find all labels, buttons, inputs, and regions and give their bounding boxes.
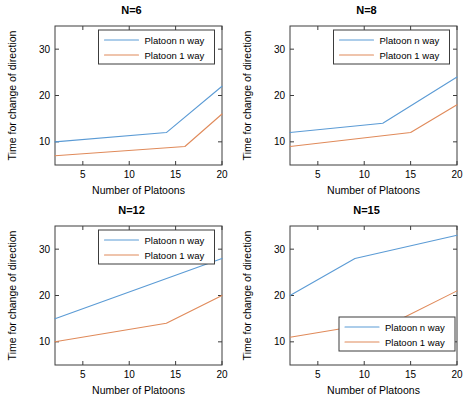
subplot-panel-n8: N=8 5101520102030Platoon n wayPlatoon 1 … bbox=[235, 0, 470, 199]
x-tick-label: 5 bbox=[80, 369, 86, 380]
legend[interactable]: Platoon n wayPlatoon 1 way bbox=[339, 317, 455, 351]
legend[interactable]: Platoon n wayPlatoon 1 way bbox=[334, 30, 450, 64]
y-tick-label: 30 bbox=[274, 244, 286, 255]
legend-label: Platoon 1 way bbox=[145, 250, 205, 261]
y-axis-label: Time for change of direction bbox=[6, 230, 18, 360]
y-tick-label: 10 bbox=[274, 136, 286, 147]
y-axis-label: Time for change of direction bbox=[241, 30, 253, 160]
x-tick-label: 10 bbox=[124, 169, 136, 180]
x-tick-label: 15 bbox=[170, 169, 182, 180]
x-tick-label: 10 bbox=[124, 369, 136, 380]
plot-area-n12: 5101520102030Platoon n wayPlatoon 1 wayN… bbox=[0, 200, 235, 399]
series-line-n-way bbox=[290, 77, 457, 133]
series-line-n-way bbox=[55, 86, 222, 142]
y-tick-label: 20 bbox=[39, 90, 51, 101]
x-tick-label: 10 bbox=[359, 169, 371, 180]
y-tick-label: 10 bbox=[274, 336, 286, 347]
y-axis-label: Time for change of direction bbox=[6, 30, 18, 160]
subplot-panel-n15: N=15 5101520102030Platoon n wayPlatoon 1… bbox=[235, 200, 470, 399]
plot-area-n15: 5101520102030Platoon n wayPlatoon 1 wayN… bbox=[235, 200, 470, 399]
x-axis-label: Number of Platoons bbox=[327, 384, 420, 396]
y-tick-label: 10 bbox=[39, 336, 51, 347]
y-axis-label: Time for change of direction bbox=[241, 230, 253, 360]
y-tick-label: 30 bbox=[39, 244, 51, 255]
legend-label: Platoon 1 way bbox=[380, 50, 440, 61]
legend-label: Platoon n way bbox=[145, 235, 205, 246]
legend[interactable]: Platoon n wayPlatoon 1 way bbox=[99, 230, 215, 264]
subplot-panel-n12: N=12 5101520102030Platoon n wayPlatoon 1… bbox=[0, 200, 235, 399]
legend-label: Platoon n way bbox=[145, 35, 205, 46]
y-tick-label: 20 bbox=[274, 90, 286, 101]
series-line-n-way bbox=[55, 258, 222, 318]
series-line-1-way bbox=[55, 296, 222, 342]
x-tick-label: 10 bbox=[359, 369, 371, 380]
series-line-n-way bbox=[290, 235, 457, 295]
x-tick-label: 15 bbox=[405, 169, 417, 180]
series-line-1-way bbox=[290, 105, 457, 147]
figure-canvas: N=6 5101520102030Platoon n wayPlatoon 1 … bbox=[0, 0, 470, 399]
x-tick-label: 5 bbox=[315, 169, 321, 180]
x-tick-label: 5 bbox=[315, 369, 321, 380]
x-axis-label: Number of Platoons bbox=[327, 184, 420, 196]
y-tick-label: 10 bbox=[39, 136, 51, 147]
legend-label: Platoon 1 way bbox=[145, 50, 205, 61]
x-tick-label: 15 bbox=[170, 369, 182, 380]
y-tick-label: 20 bbox=[39, 290, 51, 301]
legend-label: Platoon n way bbox=[380, 35, 440, 46]
x-tick-label: 20 bbox=[216, 169, 228, 180]
plot-area-n6: 5101520102030Platoon n wayPlatoon 1 wayN… bbox=[0, 0, 235, 199]
x-tick-label: 5 bbox=[80, 169, 86, 180]
x-axis-label: Number of Platoons bbox=[92, 184, 185, 196]
legend[interactable]: Platoon n wayPlatoon 1 way bbox=[99, 30, 215, 64]
legend-label: Platoon 1 way bbox=[385, 337, 445, 348]
plot-area-n8: 5101520102030Platoon n wayPlatoon 1 wayN… bbox=[235, 0, 470, 199]
y-tick-label: 30 bbox=[39, 44, 51, 55]
y-tick-label: 30 bbox=[274, 44, 286, 55]
y-tick-label: 20 bbox=[274, 290, 286, 301]
x-tick-label: 15 bbox=[405, 369, 417, 380]
legend-label: Platoon n way bbox=[385, 322, 445, 333]
subplot-panel-n6: N=6 5101520102030Platoon n wayPlatoon 1 … bbox=[0, 0, 235, 199]
x-tick-label: 20 bbox=[451, 169, 463, 180]
x-tick-label: 20 bbox=[216, 369, 228, 380]
x-tick-label: 20 bbox=[451, 369, 463, 380]
x-axis-label: Number of Platoons bbox=[92, 384, 185, 396]
